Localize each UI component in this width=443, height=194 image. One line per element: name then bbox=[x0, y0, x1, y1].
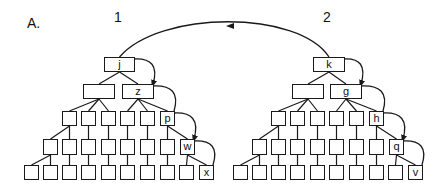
tree-node bbox=[62, 165, 77, 180]
tree-node bbox=[388, 165, 403, 180]
tree-node bbox=[233, 165, 248, 180]
tree-node bbox=[62, 139, 77, 155]
tree-node bbox=[290, 139, 305, 155]
tree-node bbox=[120, 165, 135, 180]
tree-node bbox=[252, 139, 267, 155]
tree-node bbox=[101, 165, 116, 180]
tree-node bbox=[310, 165, 325, 180]
node-v: v bbox=[408, 165, 423, 180]
tree-node bbox=[290, 111, 305, 126]
node-z: z bbox=[122, 84, 154, 99]
tree-node bbox=[81, 139, 96, 155]
tree-node bbox=[310, 139, 325, 155]
tree-node bbox=[160, 139, 175, 155]
tree-node bbox=[252, 165, 267, 180]
node-g: g bbox=[330, 84, 362, 99]
tree-node bbox=[349, 139, 364, 155]
tree-node bbox=[349, 111, 364, 126]
tree-node bbox=[81, 165, 96, 180]
tree-node bbox=[369, 165, 384, 180]
tree-node bbox=[101, 139, 116, 155]
tree-node bbox=[271, 165, 286, 180]
tree-node bbox=[329, 139, 344, 155]
tree-node bbox=[160, 165, 175, 180]
tree-node bbox=[292, 84, 324, 99]
node-x: x bbox=[199, 165, 214, 180]
tree-node bbox=[271, 111, 286, 126]
tree-node bbox=[140, 165, 155, 180]
tree-2-label: 2 bbox=[323, 10, 331, 24]
node-h: h bbox=[369, 111, 384, 126]
tree-node bbox=[349, 165, 364, 180]
tree-node bbox=[310, 111, 325, 126]
tree-node bbox=[120, 139, 135, 155]
node-p: p bbox=[160, 111, 175, 126]
tree-node bbox=[140, 111, 155, 126]
tree-node bbox=[329, 165, 344, 180]
tree-node bbox=[120, 111, 135, 126]
panel-label: A. bbox=[27, 16, 40, 30]
tree-node bbox=[43, 139, 58, 155]
tree-node bbox=[140, 139, 155, 155]
tree-node bbox=[101, 111, 116, 126]
tree-node bbox=[81, 111, 96, 126]
tree-node bbox=[62, 111, 77, 126]
node-w: w bbox=[180, 139, 195, 155]
node-j: j bbox=[104, 57, 135, 72]
node-q: q bbox=[389, 139, 404, 155]
tree-node bbox=[24, 165, 39, 180]
node-k: k bbox=[313, 57, 345, 72]
tree-node bbox=[83, 84, 115, 99]
tree-node bbox=[271, 139, 286, 155]
tree-node bbox=[290, 165, 305, 180]
two-tree-diagram: A. 1 2 jzpwxkghqv bbox=[0, 0, 443, 194]
tree-1-label: 1 bbox=[114, 10, 122, 24]
tree-node bbox=[43, 165, 58, 180]
tree-node bbox=[369, 139, 384, 155]
tree-node bbox=[329, 111, 344, 126]
tree-node bbox=[179, 165, 194, 180]
